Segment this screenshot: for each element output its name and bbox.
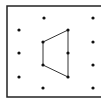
grid-dot <box>66 28 69 31</box>
grid-dot <box>41 86 44 89</box>
grid-dot <box>91 86 94 89</box>
grid-dot <box>17 75 20 78</box>
grid-dot <box>66 51 69 54</box>
frame-border <box>7 6 101 97</box>
grid-dot <box>91 40 94 43</box>
geoboard-diagram <box>0 0 101 101</box>
dot-grid <box>17 16 94 89</box>
grid-dot <box>17 51 20 54</box>
grid-dot <box>41 63 44 66</box>
grid-dot <box>17 28 20 31</box>
grid-dot <box>41 40 44 43</box>
grid-dot <box>66 75 69 78</box>
grid-dot <box>91 16 94 19</box>
grid-dot <box>91 63 94 66</box>
grid-dot <box>42 16 45 19</box>
quadrilateral-shape <box>43 30 68 77</box>
